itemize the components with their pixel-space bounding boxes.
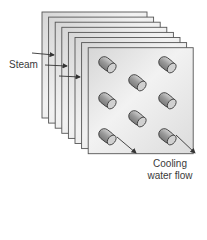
- cooling-label-line1: Cooling: [145, 158, 195, 170]
- cooling-label-line2: water flow: [145, 170, 195, 182]
- steam-label: Steam: [9, 59, 38, 71]
- cooling-water-flow-label: Cooling water flow: [145, 158, 195, 182]
